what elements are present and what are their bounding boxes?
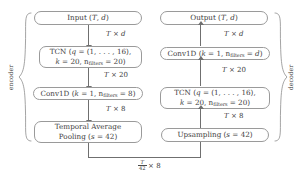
latent-shape-label: T 42 × 8 [138,160,161,171]
encoder-arrow-1 [88,25,89,45]
block-conv1d-encoder[interactable]: Conv1D (k = 1, nfilters = 8) [33,87,143,100]
block-tcn-decoder-line2: k = 20, nfilters = 20) [180,98,250,108]
decoder-brace-label: decoder [287,62,294,94]
conv-enc-pre: Conv1D (k = 1, n [41,89,104,98]
encoder-edge-label-2: T × 20 [104,71,128,79]
latent-connector-right-stem [200,142,201,157]
latent-connector-horizontal [88,157,201,158]
block-input[interactable]: Input (T, d) [34,11,142,25]
block-tcn-encoder-line2: k = 20, nfilters = 20) [55,57,125,67]
block-tcn-decoder-line1: TCN (q = (1, . . . , 16), [174,88,255,98]
encoder-brace [18,12,32,142]
decoder-arrow-2 [200,60,201,86]
block-output[interactable]: Output (T, d) [160,11,268,25]
block-tcn-encoder-line1: TCN (q = (1, . . . , 16), [50,47,131,57]
encoder-edge-label-3: T × 8 [106,105,125,113]
decoder-edge-label-2: T × 20 [222,66,246,74]
arrowhead-icon [198,21,204,25]
tcn-enc-l2-pre: k = 20, n [55,57,88,66]
block-conv1d-encoder-label: Conv1D (k = 1, nfilters = 8) [41,89,136,99]
encoder-edge-label-1: T × d [106,30,125,38]
block-temporal-average-pooling[interactable]: Temporal Average Pooling (s = 42) [34,121,142,143]
block-tap-line2: Pooling (s = 42) [59,132,117,142]
encoder-arrow-3 [88,100,89,120]
block-conv1d-decoder-label: Conv1D (k = 1, nfilters = d) [168,49,263,59]
latent-fraction: T 42 [138,160,147,171]
tcn-enc-l2-sub: filters [89,60,103,66]
arrowhead-icon [198,56,204,60]
encoder-arrow-2 [88,68,89,86]
tcn-dec-l2-sub: filters [213,101,227,107]
block-tcn-encoder[interactable]: TCN (q = (1, . . . , 16), k = 20, nfilte… [39,46,142,68]
encoder-brace-label: encoder [7,62,14,94]
block-upsampling-label: Upsampling (s = 42) [177,130,252,140]
block-conv1d-decoder[interactable]: Conv1D (k = 1, nfilters = d) [160,47,270,60]
block-tap-line1: Temporal Average [55,122,121,132]
decoder-edge-label-1: T × d [224,30,243,38]
decoder-arrow-3 [200,109,201,128]
tcn-dec-l2-post: = 20) [228,98,251,107]
latent-connector-left-stem [88,143,89,157]
arrowhead-icon [198,105,204,109]
tcn-enc-l2-post: = 20) [103,57,126,66]
conv-dec-post: = d) [244,49,262,58]
latent-fraction-denominator: 42 [138,165,147,171]
decoder-edge-label-3: T × 8 [224,112,243,120]
block-upsampling[interactable]: Upsampling (s = 42) [161,128,269,142]
decoder-arrow-1 [200,25,201,46]
conv-enc-sub: filters [103,91,117,97]
conv-enc-post: = 8) [118,89,136,98]
diagram-canvas: encoder decoder Input (T, d) T × d TCN (… [0,0,306,179]
block-tcn-decoder[interactable]: TCN (q = (1, . . . , 16), k = 20, nfilte… [160,87,270,109]
block-input-label: Input (T, d) [67,13,108,23]
conv-dec-sub: filters [230,51,244,57]
latent-shape-suffix: × 8 [148,162,161,170]
